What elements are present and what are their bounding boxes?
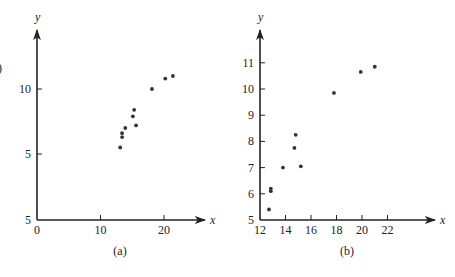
- x-tick-label: 22: [382, 223, 394, 237]
- x-tick-label: 18: [331, 223, 343, 237]
- y-tick-label: 7: [248, 161, 254, 175]
- data-point: [118, 146, 122, 150]
- x-tick-label: 16: [305, 223, 317, 237]
- x-tick-label: 10: [95, 223, 107, 237]
- chart-b-y-ticks: 567891011: [242, 56, 265, 227]
- data-point: [171, 74, 175, 78]
- chart-a-y-label: y: [34, 10, 41, 24]
- x-tick-label: 12: [254, 223, 266, 237]
- y-tick-label: 8: [248, 134, 254, 148]
- chart-a-caption: (a): [113, 244, 126, 258]
- data-point: [293, 146, 297, 150]
- chart-b-x-label: x: [439, 213, 446, 227]
- data-point: [299, 164, 303, 168]
- chart-b-x-ticks: 121416182022: [254, 215, 394, 237]
- chart-b: 121416182022 567891011 x y (b): [242, 10, 446, 258]
- x-tick-label: 0: [34, 223, 40, 237]
- data-point: [373, 65, 377, 69]
- y-tick-label: 11: [242, 56, 254, 70]
- data-point: [267, 208, 271, 212]
- chart-b-y-label: y: [257, 10, 264, 24]
- x-tick-label: 20: [356, 223, 368, 237]
- data-point: [134, 124, 138, 128]
- data-point: [120, 135, 124, 139]
- left-edge-fragment: ): [0, 61, 2, 75]
- chart-b-points: [267, 65, 377, 212]
- data-point: [332, 91, 336, 95]
- y-tick-label: 10: [19, 82, 31, 96]
- data-point: [269, 187, 273, 191]
- data-point: [150, 87, 154, 91]
- data-point: [132, 108, 136, 112]
- scatter-figure: ) 01020 510 5 x y (a) 121416182022 56789…: [0, 0, 455, 277]
- y-tick-label: 9: [248, 108, 254, 122]
- data-point: [359, 70, 363, 74]
- chart-b-caption: (b): [340, 244, 354, 258]
- x-tick-label: 14: [280, 223, 292, 237]
- data-point: [131, 114, 135, 118]
- y-tick-label: 5: [248, 213, 254, 227]
- y-tick-label: 5: [25, 147, 31, 161]
- chart-a-y-ticks: 510: [19, 82, 42, 161]
- data-point: [281, 166, 285, 170]
- data-point: [294, 133, 298, 137]
- data-point: [163, 77, 167, 81]
- y-tick-label: 6: [248, 187, 254, 201]
- chart-a-origin-y-label: 5: [25, 213, 31, 227]
- chart-a: 01020 510 5 x y (a): [19, 10, 216, 258]
- chart-a-points: [118, 74, 175, 149]
- chart-a-x-ticks: 01020: [34, 215, 170, 237]
- y-tick-label: 10: [242, 82, 254, 96]
- chart-a-x-label: x: [209, 213, 216, 227]
- x-tick-label: 20: [158, 223, 170, 237]
- data-point: [123, 126, 127, 130]
- data-point: [120, 131, 124, 135]
